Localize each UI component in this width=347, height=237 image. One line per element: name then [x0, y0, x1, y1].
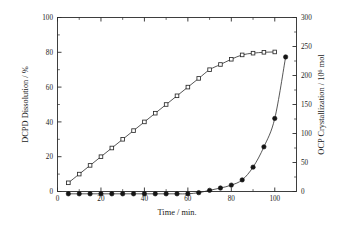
chart-canvas: 0204060801000204060801000501001502002503…	[0, 0, 347, 237]
data-point-filled-circle	[197, 190, 201, 194]
data-point-filled-circle	[186, 192, 190, 196]
data-point-filled-circle	[120, 192, 124, 196]
y-left-tick-label: 60	[46, 84, 54, 92]
series-line-dcpd	[68, 52, 274, 183]
y-right-tick-label: 150	[301, 101, 312, 109]
data-point-open-square	[77, 172, 81, 176]
data-point-open-square	[230, 57, 234, 61]
data-point-open-square	[88, 164, 92, 168]
data-point-open-square	[143, 120, 147, 124]
data-point-open-square	[240, 53, 244, 57]
y-left-tick-label: 20	[46, 153, 54, 161]
data-point-filled-circle	[77, 192, 81, 196]
x-tick-label: 0	[56, 195, 60, 203]
y-right-tick-label: 100	[301, 130, 312, 138]
data-point-open-square	[186, 85, 190, 89]
data-point-filled-circle	[175, 192, 179, 196]
data-point-open-square	[262, 51, 266, 55]
x-tick-label: 100	[269, 195, 280, 203]
axis-ticks	[58, 18, 297, 192]
data-point-filled-circle	[164, 192, 168, 196]
y-right-axis-title: OCP Crystallization / 106 mol	[317, 54, 326, 155]
x-axis-title: Time / min.	[157, 208, 196, 217]
data-point-open-square	[99, 155, 103, 159]
series-line-ocp	[68, 57, 285, 194]
data-point-open-square	[110, 146, 114, 150]
data-point-filled-circle	[142, 192, 146, 196]
data-point-filled-circle	[153, 192, 157, 196]
data-point-filled-circle	[251, 165, 255, 169]
x-tick-label: 80	[228, 195, 236, 203]
axis-tick-labels: 0204060801000204060801000501001502002503…	[42, 14, 312, 203]
data-point-filled-circle	[240, 178, 244, 182]
axes-frame	[58, 18, 297, 192]
data-point-filled-circle	[131, 192, 135, 196]
data-point-open-square	[197, 77, 201, 81]
data-point-filled-circle	[283, 55, 287, 59]
data-point-open-square	[251, 51, 255, 55]
y-left-axis-title: DCPD Dissolution / %	[21, 66, 30, 143]
y-left-tick-label: 80	[46, 49, 54, 57]
data-point-filled-circle	[229, 183, 233, 187]
data-point-open-square	[273, 50, 277, 54]
data-point-filled-circle	[207, 188, 211, 192]
chart-figure: 0204060801000204060801000501001502002503…	[0, 0, 347, 237]
y-left-tick-label: 0	[49, 188, 53, 196]
data-point-filled-circle	[88, 192, 92, 196]
data-point-filled-circle	[273, 116, 277, 120]
data-point-open-square	[208, 68, 212, 72]
y-right-tick-label: 0	[301, 188, 305, 196]
data-point-filled-circle	[262, 145, 266, 149]
y-right-tick-label: 300	[301, 14, 312, 22]
y-left-tick-label: 100	[42, 14, 53, 22]
data-point-open-square	[132, 129, 136, 133]
data-point-filled-circle	[218, 186, 222, 190]
data-point-open-square	[121, 138, 125, 142]
data-point-open-square	[219, 63, 223, 67]
data-series	[66, 50, 288, 196]
y-right-tick-label: 50	[301, 159, 309, 167]
y-right-tick-label: 200	[301, 72, 312, 80]
data-point-open-square	[153, 111, 157, 115]
data-point-open-square	[175, 94, 179, 98]
data-point-open-square	[67, 181, 71, 185]
data-point-filled-circle	[66, 192, 70, 196]
y-left-tick-label: 40	[46, 119, 54, 127]
y-right-tick-label: 250	[301, 43, 312, 51]
data-point-open-square	[164, 103, 168, 107]
data-point-filled-circle	[99, 192, 103, 196]
data-point-filled-circle	[110, 192, 114, 196]
